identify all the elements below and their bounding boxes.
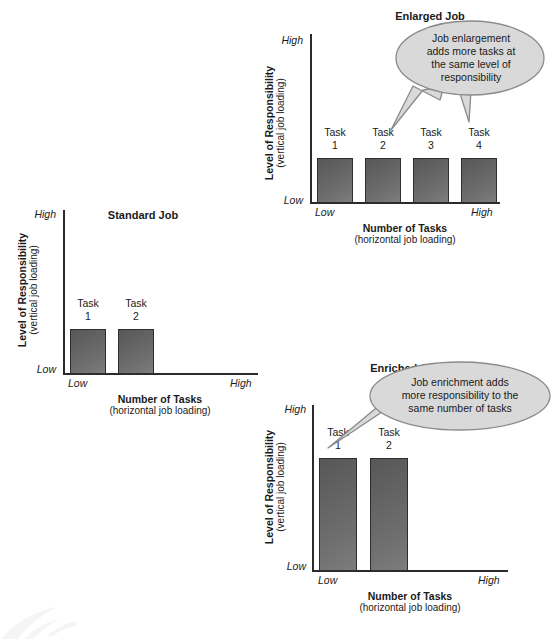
bar-task-1 <box>319 458 357 571</box>
x-axis-label-enriched: Number of Tasks <box>310 590 510 602</box>
bar-task-2 <box>365 158 401 203</box>
bar-task-4 <box>461 158 497 203</box>
callout-line-3: the same level of <box>431 58 510 70</box>
x-axis-sublabel-standard: (horizontal job loading) <box>60 405 260 416</box>
y-tick-low-enriched: Low <box>266 560 306 572</box>
x-axis-label-standard: Number of Tasks <box>60 393 260 405</box>
callout-line-1: Job enrichment adds <box>411 376 508 388</box>
task-name: Task <box>125 297 147 309</box>
callout-line-2: more responsibility to the <box>402 389 519 401</box>
x-tick-high-standard: High <box>230 377 252 389</box>
bar-label-task-2: Task 2 <box>112 297 160 322</box>
y-tick-low-standard: Low <box>16 363 56 375</box>
bar-task-3 <box>413 158 449 203</box>
y-axis-line-enlarged <box>310 34 312 204</box>
x-tick-low-enriched: Low <box>318 574 337 586</box>
callout-line-1: Job enlargement <box>432 32 510 44</box>
callout-text-enriched: Job enrichment adds more responsibility … <box>378 376 542 415</box>
callout-line-2: adds more tasks at <box>427 45 516 57</box>
task-name: Task <box>324 126 346 138</box>
y-axis-line-standard <box>63 210 65 375</box>
y-axis-label-enriched: Level of Responsibility (vertical job lo… <box>263 412 287 562</box>
bar-task-1 <box>317 158 353 203</box>
x-tick-high-enlarged: High <box>471 206 493 218</box>
task-number: 2 <box>133 310 139 322</box>
x-axis-label-enlarged: Number of Tasks <box>305 222 505 234</box>
y-axis-label-main: Level of Responsibility <box>16 215 28 365</box>
task-number: 1 <box>332 139 338 151</box>
x-tick-low-standard: Low <box>68 377 87 389</box>
y-axis-label-main: Level of Responsibility <box>263 412 275 562</box>
chart-enriched-job: Enriched Job Level of Responsibility (ve… <box>250 358 558 628</box>
callout-line-4: responsibility <box>441 71 502 83</box>
y-tick-high-standard: High <box>16 208 56 220</box>
bar-task-2 <box>370 458 408 571</box>
y-axis-label-main: Level of Responsibility <box>263 48 275 198</box>
callout-text-enlarged: Job enlargement adds more tasks at the s… <box>405 32 537 84</box>
task-number: 1 <box>85 310 91 322</box>
chart-title-standard: Standard Job <box>68 209 218 221</box>
x-axis-sublabel-enlarged: (horizontal job loading) <box>305 234 505 245</box>
bar-task-1 <box>70 329 106 374</box>
chart-enlarged-job: Enlarged Job Level of Responsibility (ve… <box>255 8 558 248</box>
y-axis-label-sub: (vertical job loading) <box>28 215 40 365</box>
x-axis-sublabel-enriched: (horizontal job loading) <box>310 602 510 613</box>
task-number: 3 <box>428 139 434 151</box>
y-axis-label-standard: Level of Responsibility (vertical job lo… <box>16 215 40 365</box>
y-axis-label-sub: (vertical job loading) <box>275 48 287 198</box>
bar-label-task-1: Task 1 <box>311 126 359 151</box>
y-tick-high-enlarged: High <box>263 34 303 46</box>
chart-standard-job: Standard Job Level of Responsibility (ve… <box>8 205 270 405</box>
watermark-logo <box>0 595 120 641</box>
x-tick-high-enriched: High <box>478 574 500 586</box>
bar-label-task-1: Task 1 <box>64 297 112 322</box>
y-tick-high-enriched: High <box>266 403 306 415</box>
y-axis-label-enlarged: Level of Responsibility (vertical job lo… <box>263 48 287 198</box>
y-axis-label-sub: (vertical job loading) <box>275 412 287 562</box>
task-name: Task <box>77 297 99 309</box>
x-tick-low-enlarged: Low <box>315 206 334 218</box>
task-number: 2 <box>380 139 386 151</box>
bar-task-2 <box>118 329 154 374</box>
task-number: 4 <box>476 139 482 151</box>
callout-line-3: same number of tasks <box>408 402 511 414</box>
